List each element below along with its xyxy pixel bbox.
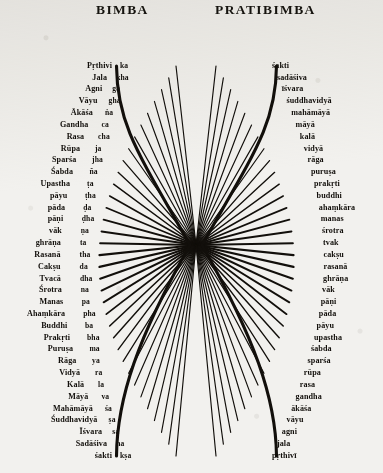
bimba-tattva-9: Śabda [51,168,73,176]
pratibimba-tattva-10: prakṛti [314,180,340,188]
pratibimba-tattva-9: puruṣa [311,168,336,176]
bimba-tattva-22: Buddhi [41,322,67,330]
bimba-tattva-32: Sadāśiva [76,440,107,448]
pratibimba-tattva-18: ghrāṇa [323,275,348,283]
bimba-letter-23: bha [87,334,100,342]
bimba-letter-33: kṣa [120,452,131,460]
pratibimba-tattva-31: agni [282,428,297,436]
pratibimba-tattva-12: ahaṃkāra [319,204,355,212]
bimba-tattva-30: Śuddhavidyā [51,416,98,424]
pratibimba-tattva-26: rūpa [304,369,321,377]
pratibimba-tattva-15: tvak [323,239,339,247]
bimba-tattva-11: pāyu [50,192,68,200]
bimba-tattva-7: Rūpa [61,145,80,153]
bimba-letter-13: ḍha [82,215,95,223]
bimba-letter-11: ṭha [85,192,96,200]
bimba-tattva-26: Vidyā [59,369,80,377]
bimba-letter-12: ḍa [83,204,91,212]
pratibimba-tattva-20: pāṇi [321,298,337,306]
bimba-tattva-6: Rasa [67,133,85,141]
bimba-tattva-15: ghrāṇa [36,239,61,247]
ray [123,161,196,245]
bimba-letter-21: pha [83,310,96,318]
bimba-tattva-23: Prakṛti [44,334,70,342]
bimba-tattva-24: Puruṣa [48,345,73,353]
bimba-tattva-0: Pṛthivi [87,62,112,70]
pratibimba-tattva-0: śakti [272,62,289,70]
bimba-letter-18: dha [80,275,93,283]
bimba-tattva-31: Īśvara [80,428,103,436]
bimba-tattva-2: Agni [85,85,102,93]
pratibimba-tattva-29: ākāśa [291,405,311,413]
ray [196,90,231,245]
bimba-tattva-28: Māyā [68,393,88,401]
bimba-letter-25: ya [92,357,100,365]
pratibimba-tattva-3: śuddhavidyā [287,97,332,105]
ray [154,101,196,245]
ray [196,125,252,245]
bimba-tattva-5: Gandha [60,121,89,129]
bimba-letter-14: ṇa [81,227,89,235]
pratibimba-tattva-33: pṛthivī [272,452,297,460]
ray-fan-graphic [0,0,383,473]
bimba-tattva-14: vāk [49,227,62,235]
bimba-tattva-27: Kalā [67,381,84,389]
pratibimba-tattva-27: rasa [300,381,315,389]
bimba-tattva-12: pāda [48,204,66,212]
bimba-letter-1: kha [116,74,129,82]
bimba-letter-19: na [81,286,89,294]
bimba-letter-7: ja [95,145,102,153]
pratibimba-tattva-32: jala [277,440,290,448]
bimba-letter-15: ta [80,239,87,247]
pratibimba-tattva-11: buddhi [317,192,342,200]
bimba-letter-10: ṭa [87,180,94,188]
bimba-tattva-25: Rāga [58,357,76,365]
ray [196,78,223,245]
bimba-letter-8: jha [92,156,103,164]
pratibimba-tattva-17: rasanā [323,263,347,271]
bimba-letter-4: ṅa [105,109,113,117]
bimba-tattva-3: Vāyu [79,97,98,105]
bimba-tattva-17: Cakṣu [38,263,61,271]
bimba-letter-24: ma [89,345,99,353]
bimba-tattva-33: śakti [95,452,112,460]
bimba-tattva-20: Manas [39,298,63,306]
ray [141,125,196,245]
bimba-tattva-29: Mahāmāyā [53,405,93,413]
pratibimba-tattva-24: śabda [311,345,332,353]
bimba-letter-2: ga [112,85,120,93]
bimba-letter-27: la [98,381,104,389]
bimba-letter-31: sa [112,428,119,436]
bimba-tattva-4: Ākāśa [71,109,93,117]
pratibimba-tattva-7: vidyā [304,145,323,153]
bimba-tattva-13: pāṇi [48,215,64,223]
bimba-tattva-1: Jala [92,74,107,82]
ray [110,196,196,245]
pratibimba-tattva-25: sparśa [308,357,331,365]
bimba-letter-3: gha [109,97,121,105]
bimba-letter-26: ra [95,369,102,377]
pratibimba-tattva-16: cakṣu [323,251,343,259]
pratibimba-tattva-2: īśvara [282,85,304,93]
bimba-letter-9: ña [89,168,97,176]
ray [196,161,270,245]
pratibimba-tattva-8: rāga [308,156,324,164]
bimba-letter-29: śa [105,405,112,413]
pratibimba-tattva-14: śrotra [322,227,344,235]
pratibimba-tattva-23: upastha [314,334,342,342]
bimba-letter-0: ka [120,62,128,70]
pratibimba-tattva-28: gandha [296,393,322,401]
bimba-letter-20: pa [82,298,90,306]
bimba-letter-32: ha [116,440,124,448]
pratibimba-tattva-19: vāk [322,286,335,294]
bimba-letter-5: ca [101,121,108,129]
pratibimba-tattva-30: vāyu [287,416,304,424]
bimba-tattva-19: Śrotra [39,286,62,294]
pratibimba-tattva-13: manas [321,215,344,223]
pratibimba-tattva-1: sadāśiva [277,74,307,82]
diagram-stage: BIMBA PRATIBIMBA PṛthiviJalaAgniVāyuĀkāś… [0,0,383,473]
bimba-tattva-16: Rasanā [34,251,60,259]
bimba-tattva-10: Upastha [41,180,71,188]
pratibimba-tattva-22: pāyu [317,322,335,330]
pratibimba-tattva-6: kalā [300,133,315,141]
